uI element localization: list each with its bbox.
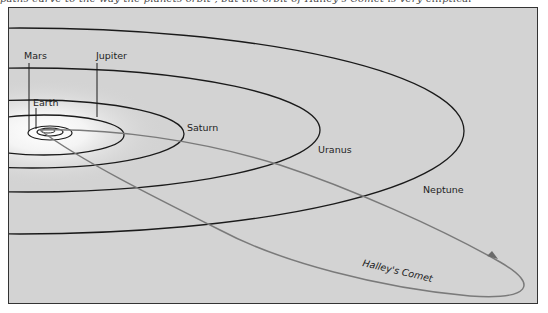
label-mars: Mars	[24, 50, 47, 61]
solar-system-diagram: Mars Jupiter Earth Saturn Uranus Neptune…	[0, 0, 548, 313]
label-jupiter: Jupiter	[95, 50, 127, 61]
label-earth: Earth	[33, 97, 58, 108]
label-saturn: Saturn	[187, 122, 218, 133]
label-uranus: Uranus	[318, 144, 352, 155]
label-neptune: Neptune	[423, 184, 464, 195]
